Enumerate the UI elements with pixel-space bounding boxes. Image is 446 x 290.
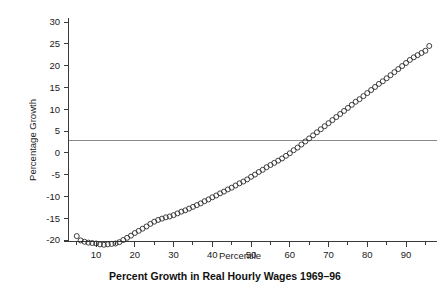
y-tick-label: 10 [49, 104, 60, 115]
x-axis-title: Percentile [219, 250, 261, 261]
data-point [427, 43, 432, 48]
x-tick-label: 70 [323, 249, 334, 260]
y-tick-label: 5 [55, 125, 60, 136]
y-tick-label: 15 [49, 82, 60, 93]
y-tick-label: 0 [55, 147, 60, 158]
x-tick-label: 80 [362, 249, 373, 260]
data-point [74, 234, 79, 239]
chart-figure: Percentage Growth -20-15-10-505101520253… [0, 0, 446, 290]
y-tick-label: -20 [46, 234, 60, 245]
y-tick-label: -5 [52, 169, 60, 180]
y-axis-title: Percentage Growth [27, 99, 38, 181]
x-tick-label: 60 [285, 249, 296, 260]
x-tick-label: 40 [207, 249, 218, 260]
y-tick-label: -15 [46, 213, 60, 224]
x-tick-label: 90 [401, 249, 412, 260]
x-tick-label: 20 [130, 249, 141, 260]
data-point [423, 48, 428, 53]
y-tick-label: 20 [49, 60, 60, 71]
x-tick-label: 30 [168, 249, 179, 260]
scatter-plot: Percentage Growth -20-15-10-505101520253… [0, 0, 446, 290]
chart-title: Percent Growth in Real Hourly Wages 1969… [109, 270, 341, 282]
y-axis-ticks: -20-15-10-5051015202530 [46, 16, 69, 245]
data-point-series [74, 43, 432, 247]
y-tick-label: 25 [49, 38, 60, 49]
y-tick-label: 30 [49, 16, 60, 27]
y-tick-label: -10 [46, 191, 60, 202]
x-tick-label: 10 [91, 249, 102, 260]
